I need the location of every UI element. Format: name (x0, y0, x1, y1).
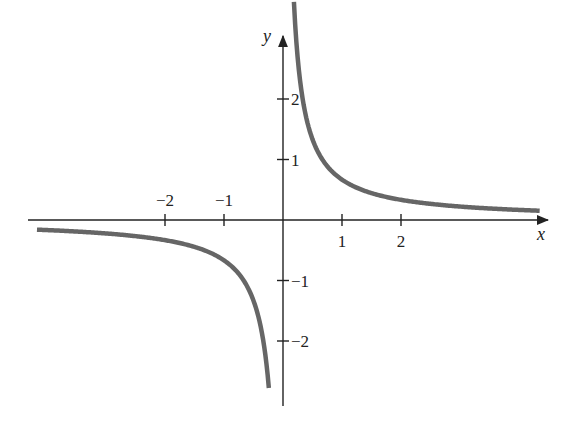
y-axis-label: y (261, 26, 271, 46)
x-ticks: −2−112 (156, 191, 405, 251)
hyperbola-chart: −2−112 21−1−2 x y (0, 0, 567, 433)
x-tick-label: −1 (215, 191, 233, 210)
x-tick-label: 2 (397, 232, 406, 251)
y-tick-label: −1 (291, 272, 309, 291)
x-tick-label: −2 (156, 191, 174, 210)
x-axis-label: x (536, 224, 545, 244)
y-tick-label: 1 (291, 151, 300, 170)
y-tick-label: 2 (291, 90, 300, 109)
curve-left-branch (37, 230, 269, 388)
x-tick-label: 1 (338, 232, 347, 251)
curves (37, 2, 540, 388)
y-tick-label: −2 (291, 332, 309, 351)
curve-right-branch (294, 2, 540, 211)
